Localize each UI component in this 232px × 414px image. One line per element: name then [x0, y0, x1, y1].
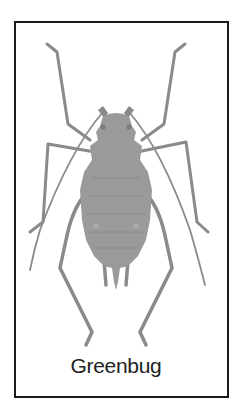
- figure-caption: Greenbug: [0, 354, 232, 378]
- greenbug-illustration: [0, 0, 232, 414]
- body: [80, 106, 152, 290]
